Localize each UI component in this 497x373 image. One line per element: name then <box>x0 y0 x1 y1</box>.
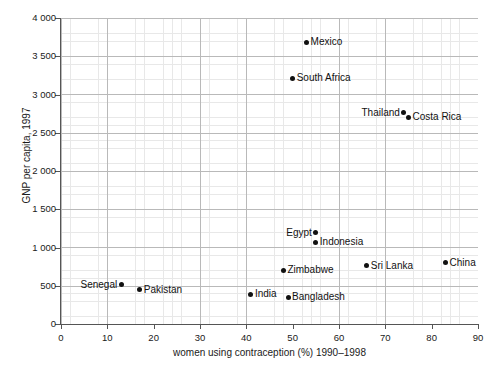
plot-area: MexicoSouth AfricaThailandCosta RicaEgyp… <box>61 18 478 324</box>
y-tick-label: 4 000 <box>8 13 56 23</box>
x-tick-label: 20 <box>139 333 169 343</box>
x-tick-label: 10 <box>92 333 122 343</box>
data-point-label: Zimbabwe <box>287 265 333 275</box>
data-point-label: Sri Lanka <box>371 261 413 271</box>
x-tick-label: 50 <box>278 333 308 343</box>
x-tick-mark <box>200 324 201 329</box>
x-tick-label: 30 <box>185 333 215 343</box>
x-tick-mark <box>107 324 108 329</box>
data-point-label: Pakistan <box>144 285 182 295</box>
data-point-label: Mexico <box>311 37 343 47</box>
x-tick-label: 40 <box>231 333 261 343</box>
x-tick-label: 70 <box>370 333 400 343</box>
data-point[interactable] <box>281 268 286 273</box>
data-point-label: China <box>450 258 476 268</box>
x-tick-mark <box>154 324 155 329</box>
x-tick-mark <box>478 324 479 329</box>
y-tick-label: 3 500 <box>8 51 56 61</box>
y-tick-label: 1 500 <box>8 204 56 214</box>
data-point-label: Senegal <box>81 280 118 290</box>
x-tick-mark <box>432 324 433 329</box>
x-tick-label: 60 <box>324 333 354 343</box>
x-axis-title: women using contraception (%) 1990–1998 <box>61 347 478 358</box>
scatter-chart: MexicoSouth AfricaThailandCosta RicaEgyp… <box>0 0 497 373</box>
x-tick-mark <box>61 324 62 329</box>
y-tick-label: 2 500 <box>8 128 56 138</box>
data-point[interactable] <box>286 295 291 300</box>
data-point-label: Costa Rica <box>413 112 462 122</box>
x-tick-mark <box>339 324 340 329</box>
y-tick-label: 2 000 <box>8 166 56 176</box>
data-point-label: India <box>255 289 277 299</box>
x-tick-label: 90 <box>463 333 493 343</box>
y-tick-label: 3 000 <box>8 90 56 100</box>
x-axis-line <box>61 324 479 325</box>
x-tick-mark <box>246 324 247 329</box>
data-point-label: Egypt <box>286 228 312 238</box>
x-tick-mark <box>385 324 386 329</box>
y-tick-label: 1 000 <box>8 243 56 253</box>
data-point-label: Thailand <box>362 108 400 118</box>
x-tick-label: 80 <box>417 333 447 343</box>
x-tick-mark <box>293 324 294 329</box>
y-axis-title: GNP per capita, 1997 <box>21 51 32 261</box>
data-point-label: Bangladesh <box>292 292 345 302</box>
y-tick-label: 500 <box>8 281 56 291</box>
major-gridlines <box>61 18 478 324</box>
data-point-label: South Africa <box>297 73 351 83</box>
x-tick-label: 0 <box>46 333 76 343</box>
data-point[interactable] <box>406 115 411 120</box>
data-point-label: Indonesia <box>320 237 363 247</box>
y-tick-label: 0 <box>8 319 56 329</box>
data-point[interactable] <box>304 40 309 45</box>
